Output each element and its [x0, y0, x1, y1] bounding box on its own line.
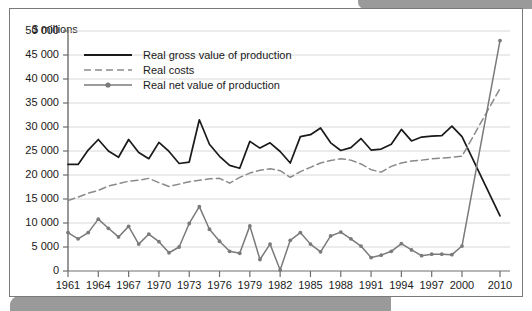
legend-label: Real costs — [143, 64, 194, 76]
decorative-bottom-bar-segment — [355, 296, 391, 311]
chart-page: $ millions 05 00010 00015 00020 00025 00… — [0, 0, 532, 311]
y-axis-tick-label: 5 000 — [10, 240, 59, 252]
y-axis-tick-label: 15 000 — [10, 192, 59, 204]
decorative-bottom-bar — [10, 296, 378, 311]
x-axis-tick-label: 2010 — [480, 279, 520, 291]
x-axis-tick-label: 2000 — [442, 279, 482, 291]
legend-line-icon — [82, 49, 134, 61]
legend-label: Real gross value of production — [143, 49, 292, 61]
legend-line-icon — [82, 64, 134, 76]
legend-item: Real costs — [82, 62, 292, 77]
legend-item: Real gross value of production — [82, 47, 292, 62]
y-axis-tick-label: 25 000 — [10, 144, 59, 156]
legend-line-icon — [82, 79, 134, 91]
y-axis-tick-label: 45 000 — [10, 48, 59, 60]
y-axis-tick-label: 0 — [10, 264, 59, 276]
y-axis-tick-label: 40 000 — [10, 72, 59, 84]
chart-legend: Real gross value of productionReal costs… — [82, 47, 292, 92]
y-axis-tick-label: 20 000 — [10, 168, 59, 180]
chart-frame: $ millions 05 00010 00015 00020 00025 00… — [9, 8, 523, 297]
legend-label: Real net value of production — [143, 79, 280, 91]
y-axis-tick-label: 35 000 — [10, 96, 59, 108]
y-axis-tick-label: 50 000 — [10, 24, 59, 36]
legend-item: Real net value of production — [82, 77, 292, 92]
y-axis-tick-label: 30 000 — [10, 120, 59, 132]
y-axis-tick-label: 10 000 — [10, 216, 59, 228]
